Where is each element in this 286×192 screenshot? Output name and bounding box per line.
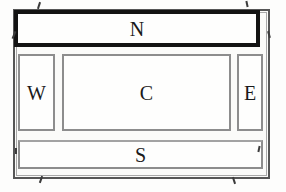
scan-artifact-tick bbox=[245, 1, 248, 7]
north-button-label: N bbox=[130, 19, 144, 39]
east-button-label: E bbox=[244, 83, 256, 103]
borderlayout-demo-screenshot: N W C E S bbox=[0, 0, 286, 192]
center-button[interactable]: C bbox=[62, 54, 231, 131]
north-button[interactable]: N bbox=[14, 10, 260, 47]
south-button-label: S bbox=[135, 145, 146, 165]
center-button-label: C bbox=[140, 83, 153, 103]
south-button[interactable]: S bbox=[18, 140, 263, 169]
east-button[interactable]: E bbox=[237, 54, 263, 131]
west-button-label: W bbox=[27, 83, 46, 103]
west-button[interactable]: W bbox=[18, 54, 55, 131]
